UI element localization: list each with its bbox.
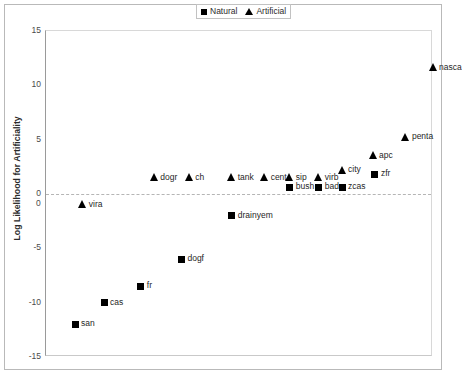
- y-tick-neg5: -5: [11, 243, 41, 252]
- data-point-label: zcas: [348, 182, 365, 191]
- data-point-label: cas: [110, 298, 123, 307]
- triangle-marker-icon: [78, 200, 86, 208]
- data-point-label: virb: [325, 173, 339, 182]
- triangle-marker-icon: [185, 173, 193, 181]
- triangle-marker-icon: [401, 133, 409, 141]
- legend-entry-artificial: Artificial: [245, 7, 286, 16]
- square-marker-icon: [137, 283, 144, 290]
- legend-label-artificial: Artificial: [256, 7, 286, 16]
- square-marker-icon: [315, 184, 322, 191]
- data-point-label: tank: [238, 173, 254, 182]
- square-marker-icon: [228, 212, 235, 219]
- data-point-label: apc: [379, 151, 393, 160]
- triangle-marker-icon: [227, 173, 235, 181]
- y-tick-15: 15: [11, 26, 41, 35]
- legend-entry-natural: Natural: [201, 7, 237, 16]
- square-marker-icon: [178, 256, 185, 263]
- square-marker-icon: [101, 299, 108, 306]
- zero-reference-line: [46, 194, 431, 195]
- triangle-marker-icon: [260, 173, 268, 181]
- data-point-label: nasca: [439, 63, 462, 72]
- triangle-marker-icon: [285, 173, 293, 181]
- square-marker-icon: [339, 184, 346, 191]
- data-point-label: city: [348, 165, 361, 174]
- data-point-label: dogr: [160, 173, 177, 182]
- data-point-label: ch: [195, 173, 204, 182]
- data-point-label: fr: [147, 281, 152, 290]
- y-tick-0: 0: [11, 189, 41, 198]
- chart-legend: Natural Artificial: [196, 4, 291, 19]
- data-point-label: drainyem: [238, 211, 273, 220]
- triangle-marker-icon: [314, 173, 322, 181]
- plot-area: sancasfrdogfdrainyembushbadzcaszfrvirado…: [45, 30, 432, 356]
- square-marker-icon: [371, 171, 378, 178]
- legend-label-natural: Natural: [210, 7, 237, 16]
- square-marker-icon: [201, 9, 207, 15]
- data-point-label: cent: [271, 173, 287, 182]
- square-marker-icon: [72, 321, 79, 328]
- data-point-label: vira: [89, 200, 103, 209]
- data-point-label: bush: [296, 182, 314, 191]
- data-point-label: zfr: [381, 169, 390, 178]
- y-tick-neg15: -15: [11, 352, 41, 361]
- data-point-label: penta: [412, 132, 433, 141]
- triangle-marker-icon: [338, 166, 346, 174]
- data-point-label: sip: [296, 173, 307, 182]
- y-tick-neg10: -10: [11, 297, 41, 306]
- y-axis-ticks: 15 10 5 0 -5 -10 -15: [8, 30, 41, 356]
- triangle-marker-icon: [245, 8, 253, 15]
- y-tick-10: 10: [11, 80, 41, 89]
- y-tick-5: 5: [11, 134, 41, 143]
- x-axis-origin-label: 0: [36, 199, 41, 208]
- data-point-label: dogf: [187, 254, 204, 263]
- data-point-label: bad: [325, 182, 339, 191]
- triangle-marker-icon: [369, 151, 377, 159]
- square-marker-icon: [286, 184, 293, 191]
- triangle-marker-icon: [429, 63, 437, 71]
- triangle-marker-icon: [150, 173, 158, 181]
- data-point-label: san: [81, 319, 95, 328]
